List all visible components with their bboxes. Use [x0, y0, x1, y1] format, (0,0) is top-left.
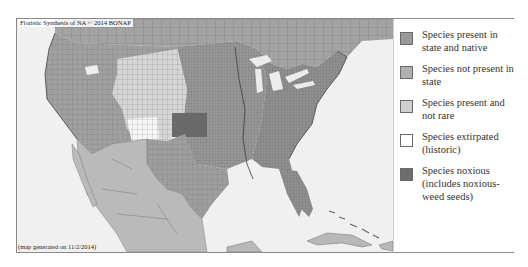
swatch-not-present-icon [400, 66, 413, 79]
north-america-map [17, 19, 393, 252]
legend-label: Species present and not rare [422, 96, 514, 122]
yucatan [227, 241, 262, 252]
swatch-noxious-icon [400, 168, 413, 181]
distribution-map: Floristic Synthesis of NA © 2014 BONAP (… [17, 19, 393, 252]
legend-label: Species extirpated (historic) [422, 130, 514, 156]
hispaniola [379, 241, 393, 251]
cuba [307, 233, 372, 247]
legend-label: Species not present in state [422, 62, 514, 88]
map-figure: Floristic Synthesis of NA © 2014 BONAP (… [16, 18, 514, 253]
map-generated-date: (map generated on 11/2/2014) [18, 243, 96, 251]
legend-label: Species noxious (includes noxious-weed s… [422, 164, 514, 203]
swatch-native-icon [400, 32, 413, 45]
legend: Species present in state and native Spec… [393, 19, 514, 252]
swatch-present-not-rare-icon [400, 100, 413, 113]
legend-label: Species present in state and native [422, 28, 514, 54]
swatch-extirpated-icon [400, 134, 413, 147]
map-credit: Floristic Synthesis of NA © 2014 BONAP [18, 19, 133, 27]
